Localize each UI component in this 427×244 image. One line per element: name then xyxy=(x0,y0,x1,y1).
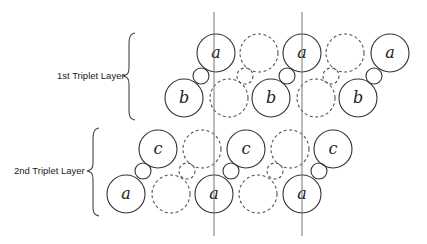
small-linker-sphere xyxy=(366,68,382,84)
dashed-sphere-lower xyxy=(239,175,277,213)
sphere-label-c: c xyxy=(329,139,338,158)
dashed-sphere-lower xyxy=(210,79,248,117)
brace-layer-1 xyxy=(123,33,135,120)
sphere-label-b: b xyxy=(179,88,189,107)
small-linker-sphere xyxy=(311,163,327,179)
sphere-label-c: c xyxy=(154,139,163,158)
layer-2-label: 2nd Triplet Layer xyxy=(14,165,85,176)
small-linker-sphere xyxy=(223,163,239,179)
small-linker-sphere xyxy=(135,163,151,179)
sphere-label-b: b xyxy=(353,88,363,107)
dashed-sphere-upper xyxy=(240,34,278,72)
sphere-label-a: a xyxy=(385,43,395,62)
dashed-small-sphere xyxy=(237,68,253,84)
brace-layer-2 xyxy=(87,128,99,216)
sphere-label-a: a xyxy=(211,43,221,62)
small-linker-sphere xyxy=(193,68,209,84)
sphere-label-b: b xyxy=(266,88,276,107)
triplet-layer-diagram: 1st Triplet Layer 2nd Triplet Layer aaab… xyxy=(0,0,427,244)
dashed-small-sphere xyxy=(323,68,339,84)
dashed-sphere-upper xyxy=(183,130,221,168)
dashed-sphere-upper xyxy=(271,130,309,168)
dashed-sphere-lower xyxy=(152,175,190,213)
sphere-label-a: a xyxy=(121,184,131,203)
small-linker-sphere xyxy=(279,68,295,84)
dashed-sphere-upper xyxy=(326,34,364,72)
dashed-sphere-lower xyxy=(297,79,335,117)
layer-1-label: 1st Triplet Layer xyxy=(57,70,125,81)
sphere-label-c: c xyxy=(242,139,251,158)
